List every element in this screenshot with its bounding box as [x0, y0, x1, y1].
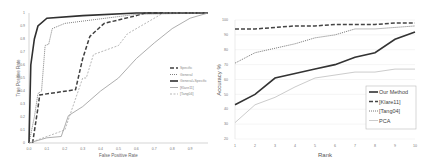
y-tick-label: 70	[224, 63, 228, 67]
legend-label: Our Method	[379, 89, 408, 95]
y-tick-label: 50	[224, 93, 228, 97]
y-tick-label: 0.9	[20, 24, 25, 28]
legend-label: [Klare11]	[379, 99, 401, 105]
y-tick-label: 90	[224, 33, 228, 37]
roc-chart: 0.00.10.20.30.40.50.60.70.80.900.10.20.3…	[0, 0, 216, 162]
legend-label: Specific	[180, 66, 193, 70]
x-tick-label: 0.6	[134, 147, 139, 151]
legend-label: [Tang04]	[379, 108, 401, 114]
y-axis-title: Accuracy %	[216, 64, 222, 96]
rank-accuracy-chart: 203040506070809010012345678910RankAccura…	[216, 0, 432, 162]
x-tick-label: 0.8	[170, 147, 175, 151]
legend-label: General+Specific	[180, 79, 207, 83]
y-tick-label: 0.7	[20, 50, 25, 54]
y-tick-label: 0	[23, 141, 25, 145]
y-tick-label: 0.1	[20, 128, 25, 132]
accuracy-legend: Our Method[Klare11][Tang04]PCA	[366, 86, 416, 129]
x-tick-label: 3	[274, 144, 276, 148]
x-axis-title: False Positive Rate	[99, 153, 138, 158]
x-tick-label: 0.9	[188, 147, 193, 151]
x-tick-label: 9	[394, 144, 396, 148]
x-tick-label: 1	[234, 144, 236, 148]
x-tick-label: 5	[314, 144, 316, 148]
y-tick-label: 30	[224, 122, 228, 126]
x-tick-label: 0.5	[116, 147, 121, 151]
x-tick-label: 10	[413, 144, 417, 148]
roc-plot: 0.00.10.20.30.40.50.60.70.80.900.10.20.3…	[0, 0, 216, 162]
roc-series-line	[33, 13, 208, 143]
x-tick-label: 2	[254, 144, 256, 148]
legend-label: General	[180, 73, 193, 77]
x-tick-label: 0.1	[44, 147, 49, 151]
y-tick-label: 0.3	[20, 102, 25, 106]
y-tick-label: 60	[224, 78, 228, 82]
legend-label: [Klare11]	[180, 86, 194, 90]
legend-label: [Tang04]	[180, 92, 193, 96]
roc-legend: SpecificGeneralGeneral+Specific[Klare11]…	[170, 66, 207, 96]
y-tick-label: 1	[23, 11, 25, 15]
roc-series-line	[29, 13, 208, 143]
x-tick-label: 7	[354, 144, 356, 148]
y-axis-title: True Positive Rate	[16, 59, 21, 96]
x-tick-label: 0.4	[98, 147, 103, 151]
y-tick-label: 0.8	[20, 37, 25, 41]
x-tick-label: 6	[334, 144, 336, 148]
x-axis-title: Rank	[318, 152, 333, 158]
x-tick-label: 8	[374, 144, 376, 148]
x-tick-label: 0.2	[62, 147, 67, 151]
y-tick-label: 0.2	[20, 115, 25, 119]
x-tick-label: 0.0	[27, 147, 32, 151]
legend-label: PCA	[379, 118, 391, 124]
y-tick-label: 20	[224, 137, 228, 141]
y-tick-label: 100	[222, 18, 228, 22]
x-tick-label: 0.3	[80, 147, 85, 151]
x-tick-label: 4	[294, 144, 296, 148]
y-tick-label: 80	[224, 48, 228, 52]
rank-accuracy-plot: 203040506070809010012345678910RankAccura…	[216, 0, 432, 162]
y-tick-label: 40	[224, 107, 228, 111]
x-tick-label: 0.7	[152, 147, 157, 151]
